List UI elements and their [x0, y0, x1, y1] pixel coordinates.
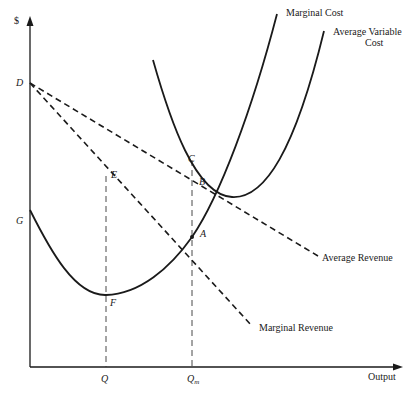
point-f-label: F — [109, 297, 117, 308]
point-e-label: E — [110, 169, 117, 180]
marginal-revenue-curve — [30, 83, 252, 326]
average-revenue-label: Average Revenue — [322, 252, 393, 263]
average-revenue-curve — [30, 83, 318, 256]
point-c-label: C — [188, 153, 195, 164]
marginal-cost-label: Marginal Cost — [286, 7, 344, 18]
y-axis-arrow-icon — [27, 16, 34, 26]
qm-tick-sub: m — [194, 378, 199, 386]
point-d-label: D — [15, 77, 24, 88]
point-g-label: G — [16, 215, 23, 226]
y-axis-label: $ — [14, 15, 19, 26]
qm-tick-label: Qm — [187, 373, 199, 386]
marginal-revenue-label: Marginal Revenue — [259, 322, 334, 333]
marginal-cost-curve — [30, 14, 277, 295]
point-b-label: B — [199, 176, 205, 187]
point-a-marker — [190, 235, 194, 239]
cost-revenue-diagram: $ Output Marginal Cost Average Variable … — [0, 0, 419, 395]
avc-label-line2: Cost — [365, 37, 384, 48]
avc-label-line1: Average Variable — [333, 26, 402, 37]
x-axis-label: Output — [368, 371, 396, 382]
x-axis-arrow-icon — [393, 364, 403, 371]
point-a-label: A — [199, 228, 207, 239]
q-tick-label: Q — [101, 373, 109, 384]
